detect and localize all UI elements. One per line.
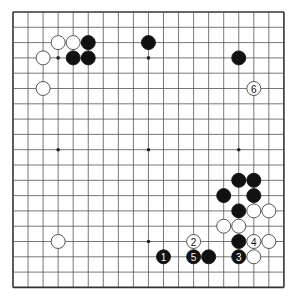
black-stone (217, 189, 231, 203)
black-stone (202, 250, 216, 264)
black-stone (247, 173, 261, 187)
white-stone (217, 219, 231, 233)
black-stone-5: 5 (187, 250, 201, 264)
black-stone (232, 235, 246, 249)
black-stone (232, 173, 246, 187)
white-stone (51, 36, 65, 50)
stone-circle (36, 82, 50, 96)
white-stone-6: 6 (247, 82, 261, 96)
star-point (147, 240, 151, 244)
stone-circle (202, 250, 216, 264)
white-stone (262, 204, 276, 218)
move-number-label: 4 (251, 237, 257, 248)
white-stone (36, 82, 50, 96)
black-stone-3: 3 (232, 250, 246, 264)
white-stone (247, 204, 261, 218)
star-point (56, 56, 60, 60)
star-point (237, 148, 241, 152)
move-number-label: 2 (191, 237, 197, 248)
stone-circle (81, 36, 95, 50)
black-stone (81, 36, 95, 50)
stone-circle (51, 36, 65, 50)
black-stone (247, 189, 261, 203)
black-stone (232, 204, 246, 218)
white-stone (262, 235, 276, 249)
black-stone (232, 51, 246, 65)
white-stone-4: 4 (247, 235, 261, 249)
move-number-label: 1 (161, 252, 167, 263)
stone-circle (262, 204, 276, 218)
star-point (147, 56, 151, 60)
stone-circle (247, 189, 261, 203)
black-stone (66, 51, 80, 65)
stone-circle (141, 36, 155, 50)
white-stone (66, 36, 80, 50)
white-stone (232, 219, 246, 233)
white-stone-2: 2 (187, 235, 201, 249)
stone-circle (232, 235, 246, 249)
stone-circle (232, 51, 246, 65)
stone-circle (217, 219, 231, 233)
go-board: 643125 (0, 0, 294, 302)
stone-circle (232, 173, 246, 187)
stone-circle (51, 235, 65, 249)
stone-circle (66, 51, 80, 65)
stone-circle (66, 36, 80, 50)
stone-circle (232, 204, 246, 218)
move-number-label: 6 (251, 84, 257, 95)
stone-circle (247, 173, 261, 187)
black-stone (141, 36, 155, 50)
go-board-diagram: 643125 (0, 0, 294, 302)
stone-circle (247, 204, 261, 218)
stone-circle (217, 189, 231, 203)
stone-circle (36, 51, 50, 65)
star-point (56, 148, 60, 152)
stone-circle (81, 51, 95, 65)
stone-circle (247, 250, 261, 264)
white-stone (247, 250, 261, 264)
stone-circle (262, 235, 276, 249)
star-point (147, 148, 151, 152)
black-stone-1: 1 (157, 250, 171, 264)
black-stone (81, 51, 95, 65)
stone-circle (232, 219, 246, 233)
white-stone (36, 51, 50, 65)
white-stone (51, 235, 65, 249)
move-number-label: 5 (191, 252, 197, 263)
move-number-label: 3 (236, 252, 242, 263)
